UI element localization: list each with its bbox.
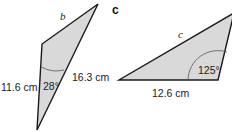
side-left-length: 11.6 cm xyxy=(1,81,38,93)
side-c-label: c xyxy=(178,28,183,40)
side-b-label: b xyxy=(60,10,66,22)
angle-125-label: 125° xyxy=(198,64,220,76)
triangle-c: c c 12.6 cm 125° xyxy=(112,3,232,99)
triangle-diagrams: b 11.6 cm 16.3 cm 28° c c 12.6 cm 125° xyxy=(0,0,232,132)
side-right-length: 16.3 cm xyxy=(72,71,110,83)
triangle-b: b 11.6 cm 16.3 cm 28° xyxy=(1,4,110,130)
angle-28-label: 28° xyxy=(43,80,59,92)
side-bottom-length: 12.6 cm xyxy=(152,87,190,99)
triangle-b-shape xyxy=(37,4,98,130)
part-c-label: c xyxy=(112,3,119,17)
